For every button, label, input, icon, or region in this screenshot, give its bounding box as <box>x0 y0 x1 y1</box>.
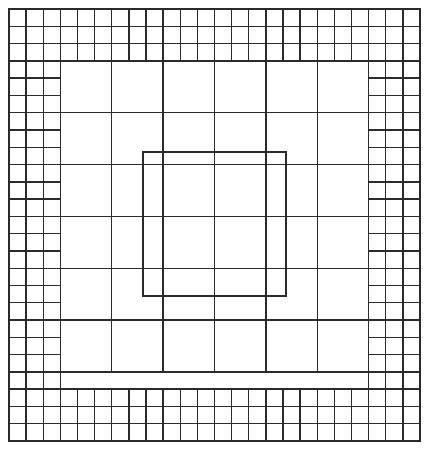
grid-lines <box>9 9 420 441</box>
figure-canvas <box>0 0 428 449</box>
fractal-grid-diagram <box>0 0 428 449</box>
